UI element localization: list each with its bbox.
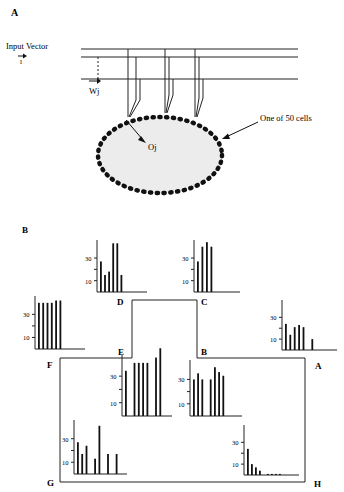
histogram-bar — [303, 327, 305, 350]
histogram-bar — [214, 367, 216, 416]
histogram-bar — [311, 339, 313, 350]
input-lines — [81, 49, 298, 79]
histogram-bar — [218, 372, 220, 416]
tick-label-10: 10 — [110, 400, 117, 407]
histogram-f: 3010 — [23, 296, 85, 349]
tick-label-30: 30 — [182, 255, 189, 262]
panel-a: A Input Vector I Wj Oj One of 50 cells — [6, 7, 312, 193]
output-label: Oj — [148, 142, 157, 152]
tick-label-10: 10 — [23, 334, 30, 341]
histogram-bar — [100, 261, 102, 292]
histogram-bar — [279, 474, 281, 475]
histogram-bar — [81, 454, 83, 474]
histogram-bar — [55, 301, 57, 349]
histogram-bar — [197, 373, 199, 416]
histogram-bar — [38, 303, 40, 349]
histogram-bar — [142, 363, 144, 416]
histogram-bar — [159, 348, 161, 416]
tick-label-10: 10 — [178, 401, 185, 408]
histogram-b: 3010 — [178, 360, 242, 416]
path-outline — [60, 300, 305, 482]
histogram-bar — [86, 446, 88, 474]
input-vector-label: Input Vector — [6, 41, 48, 51]
path-labels: A B C D E F G H — [47, 297, 322, 489]
histogram-bar — [271, 474, 273, 475]
synapse-wires — [128, 49, 203, 117]
histogram-bar — [197, 261, 199, 292]
histogram-bar — [193, 379, 195, 416]
histogram-bar — [155, 358, 157, 416]
histogram-bar — [275, 474, 277, 475]
histogram-bar — [211, 247, 213, 292]
histogram-h: 3010 — [232, 425, 299, 475]
histogram-bar — [294, 327, 296, 350]
path-label-c: C — [201, 297, 208, 307]
histogram-bar — [116, 454, 118, 474]
histogram-bar — [138, 363, 140, 416]
tick-label-10: 10 — [232, 461, 239, 468]
cell-body — [98, 117, 222, 193]
tick-label-10: 10 — [62, 459, 69, 466]
annotation-arrow-icon — [222, 122, 258, 139]
panel-a-label: A — [11, 7, 19, 18]
tick-label-30: 30 — [62, 436, 69, 443]
histogram-bar — [202, 247, 204, 292]
tick-label-10: 10 — [182, 278, 189, 285]
histogram-bar — [47, 303, 49, 349]
panel-b-label: B — [22, 225, 28, 235]
cell-annotation: One of 50 cells — [260, 113, 312, 123]
histogram-bar — [255, 467, 257, 475]
tick-label-30: 30 — [270, 314, 277, 321]
histogram-bar — [251, 464, 253, 475]
tick-label-30: 30 — [110, 373, 117, 380]
histogram-bar — [247, 449, 249, 475]
weight-label: Wj — [89, 86, 99, 96]
histogram-bar — [134, 363, 136, 416]
histogram-bar — [201, 379, 203, 416]
path-label-b: B — [201, 347, 207, 357]
path-label-g: G — [47, 478, 54, 488]
histogram-bar — [289, 335, 291, 350]
tick-label-30: 30 — [85, 255, 92, 262]
histogram-bar — [60, 301, 62, 349]
path-label-a: A — [315, 361, 322, 371]
histogram-bar — [222, 376, 224, 416]
input-symbol: I — [20, 59, 22, 65]
tick-label-30: 30 — [232, 439, 239, 446]
tick-label-30: 30 — [178, 376, 185, 383]
histogram-bar — [125, 371, 127, 416]
histogram-d: 3010 — [85, 240, 147, 292]
histogram-a: 3010 — [270, 300, 337, 350]
path-label-f: F — [47, 360, 53, 370]
panel-b: B A B C D E F G H 3010301030103010301030… — [22, 225, 337, 489]
histogram-bar — [99, 426, 101, 474]
histogram-bar — [104, 275, 106, 292]
tick-label-30: 30 — [23, 311, 30, 318]
histogram-bar — [210, 379, 212, 416]
histogram-bar — [51, 303, 53, 349]
histogram-g: 3010 — [62, 420, 127, 474]
histogram-bar — [116, 243, 118, 292]
tick-label-10: 10 — [270, 336, 277, 343]
histogram-bar — [267, 474, 269, 475]
path-label-d: D — [117, 297, 124, 307]
histogram-bar — [298, 325, 300, 350]
figure-canvas: A Input Vector I Wj Oj One of 50 cells B… — [0, 0, 344, 492]
histogram-bar — [259, 471, 261, 475]
histogram-c: 3010 — [182, 240, 240, 292]
histogram-bar — [206, 242, 208, 292]
input-arrow-icon — [18, 54, 27, 59]
tick-label-10: 10 — [85, 278, 92, 285]
histogram-bar — [112, 243, 114, 292]
path-label-e: E — [118, 347, 124, 357]
histogram-bar — [94, 459, 96, 474]
histogram-bar — [107, 454, 109, 474]
histogram-bar — [147, 363, 149, 416]
histogram-bar — [121, 275, 123, 292]
histogram-bar — [77, 442, 79, 474]
histogram-bar — [42, 303, 44, 349]
histogram-bar — [108, 272, 110, 292]
histogram-bar — [285, 324, 287, 350]
path-label-h: H — [314, 479, 321, 489]
